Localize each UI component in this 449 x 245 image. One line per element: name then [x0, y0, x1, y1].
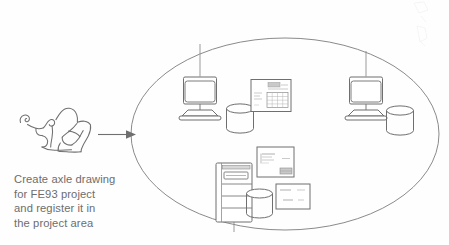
drawing-document-middle[interactable] [257, 147, 294, 177]
monitor-base [348, 110, 384, 116]
monitor-base [182, 110, 218, 116]
scan-artifact [414, 2, 428, 46]
axle-drawing-sketch [20, 108, 91, 152]
document-title-block [268, 83, 280, 88]
workstation-right[interactable] [345, 77, 387, 120]
workstation-left[interactable] [179, 77, 221, 120]
drawing-document-top[interactable] [251, 80, 291, 112]
task-caption: Create axle drawing for FE93 project and… [14, 172, 144, 230]
cylinder-bottom [227, 129, 254, 134]
cylinder-top [247, 189, 273, 198]
document-sheet [276, 184, 310, 209]
diagram-canvas: Create axle drawing for FE93 project and… [0, 0, 449, 245]
disk-storage-right[interactable] [387, 106, 414, 135]
cylinder-top [387, 106, 414, 115]
monitor-base-front [345, 116, 387, 120]
tower-vent-band [223, 166, 251, 170]
drawing-document-bottom[interactable] [276, 184, 310, 209]
disk-storage-left[interactable] [227, 104, 254, 133]
cylinder-bottom [387, 131, 414, 136]
monitor-base-front [179, 116, 221, 120]
flow-arrow [98, 130, 136, 139]
cylinder-top [227, 104, 254, 113]
